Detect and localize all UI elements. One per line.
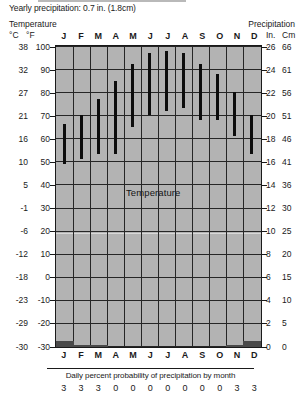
tick-label-cm: 36 — [282, 180, 298, 190]
tick-mark — [50, 47, 55, 48]
tick-label-c: -30 — [6, 342, 28, 352]
right-axis-unit-inches: In. — [266, 30, 275, 40]
tick-label-cm: 25 — [282, 226, 298, 236]
tick-label-in: 4 — [266, 295, 280, 305]
month-header-row-bottom: JFMAMJJASOND — [55, 350, 263, 363]
month-label-bottom-december: D — [246, 350, 263, 360]
tick-label-f: 0 — [30, 272, 50, 282]
tick-mark — [262, 323, 267, 324]
tick-label-cm: 51 — [282, 111, 298, 121]
gridline-vertical — [175, 46, 176, 347]
gridline-vertical — [158, 46, 159, 347]
tick-mark — [50, 347, 55, 348]
tick-label-cm: 56 — [282, 88, 298, 98]
tick-mark — [262, 47, 267, 48]
tick-mark — [50, 231, 55, 232]
tick-label-f: 90 — [30, 65, 50, 75]
tick-label-c: -12 — [6, 249, 28, 259]
tick-label-in: 6 — [266, 272, 280, 282]
tick-label-f: 30 — [30, 203, 50, 213]
tick-label-cm: 61 — [282, 65, 298, 75]
tick-label-cm: 20 — [282, 249, 298, 259]
tick-label-in: 22 — [266, 88, 280, 98]
left-axis-unit-celsius: °C — [9, 30, 19, 40]
precipitation-bar — [90, 345, 107, 347]
precipitation-probability-value: 0 — [194, 383, 211, 393]
tick-label-cm: 10 — [282, 295, 298, 305]
tick-label-c: -18 — [6, 272, 28, 282]
precipitation-bar — [73, 345, 90, 347]
precipitation-probability-value: 3 — [246, 383, 263, 393]
tick-label-f: 40 — [30, 180, 50, 190]
tick-mark — [50, 254, 55, 255]
left-axis-title: Temperature — [9, 19, 57, 29]
temperature-range-bar — [63, 124, 66, 163]
tick-label-in: 18 — [266, 134, 280, 144]
month-label-top-april: A — [107, 31, 124, 41]
tick-mark — [262, 185, 267, 186]
month-label-top-march: M — [90, 31, 107, 41]
right-axis-unit-centimeters: Cm — [282, 30, 295, 40]
precipitation-probability-value: 0 — [159, 383, 176, 393]
month-label-bottom-august: A — [176, 350, 193, 360]
tick-label-c: 16 — [6, 134, 28, 144]
month-label-bottom-september: S — [194, 350, 211, 360]
gridline-vertical — [124, 46, 125, 347]
gridline-vertical — [243, 46, 244, 347]
tick-label-f: -30 — [30, 342, 50, 352]
temperature-range-bar — [97, 99, 100, 154]
tick-mark — [262, 254, 267, 255]
temperature-range-bar — [165, 51, 168, 111]
tick-label-f: 100 — [30, 42, 50, 52]
precipitation-bar — [226, 345, 243, 347]
month-label-top-october: O — [211, 31, 228, 41]
precipitation-probability-value: 3 — [55, 383, 72, 393]
gridline-vertical — [90, 46, 91, 347]
month-label-top-may: M — [124, 31, 141, 41]
tick-label-in: 10 — [266, 226, 280, 236]
tick-label-in: 20 — [266, 111, 280, 121]
tick-label-in: 8 — [266, 249, 280, 259]
tick-label-c: 27 — [6, 88, 28, 98]
right-axis-title: Precipitation — [248, 19, 295, 29]
month-label-bottom-november: N — [228, 350, 245, 360]
tick-label-in: 16 — [266, 157, 280, 167]
precipitation-bar — [56, 341, 73, 347]
tick-mark — [262, 347, 267, 348]
tick-mark — [50, 139, 55, 140]
tick-mark — [50, 185, 55, 186]
tick-label-cm: 30 — [282, 203, 298, 213]
tick-mark — [262, 162, 267, 163]
tick-label-c: -23 — [6, 295, 28, 305]
tick-label-c: 21 — [6, 111, 28, 121]
month-label-top-august: A — [176, 31, 193, 41]
yearly-precipitation-text: Yearly precipitation: 0.7 in. (1.8cm) — [9, 3, 136, 13]
tick-mark — [50, 208, 55, 209]
month-label-bottom-may: M — [124, 350, 141, 360]
tick-label-f: -10 — [30, 295, 50, 305]
gridline-vertical — [209, 46, 210, 347]
tick-mark — [50, 162, 55, 163]
precipitation-probability-value: 3 — [228, 383, 245, 393]
temperature-range-bar — [216, 74, 219, 120]
tick-label-in: 26 — [266, 42, 280, 52]
month-label-top-june: J — [142, 31, 159, 41]
tick-mark — [262, 93, 267, 94]
month-label-bottom-january: J — [55, 350, 72, 360]
tick-label-in: 2 — [266, 318, 280, 328]
tick-label-f: 80 — [30, 88, 50, 98]
tick-mark — [262, 277, 267, 278]
tick-mark — [262, 116, 267, 117]
tick-label-in: 0 — [266, 342, 280, 352]
tick-mark — [50, 93, 55, 94]
temperature-range-bar — [80, 115, 83, 159]
tick-label-cm: 41 — [282, 157, 298, 167]
month-label-bottom-october: O — [211, 350, 228, 360]
precipitation-probability-value: 0 — [176, 383, 193, 393]
tick-mark — [50, 277, 55, 278]
month-label-top-september: S — [194, 31, 211, 41]
tick-mark — [50, 323, 55, 324]
tick-label-in: 12 — [266, 203, 280, 213]
footer-divider — [47, 368, 254, 369]
temperature-range-bar — [233, 92, 236, 136]
